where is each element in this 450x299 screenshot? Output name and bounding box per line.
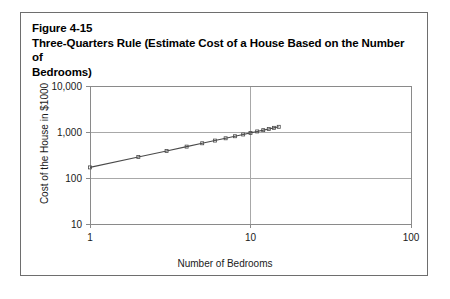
y-axis-title: Cost of the House in $1000	[39, 79, 50, 209]
y-tick-label: 10,000	[21, 81, 82, 92]
figure-frame: Figure 4-15 Three-Quarters Rule (Estimat…	[20, 12, 428, 276]
chart-svg	[21, 13, 429, 277]
y-tick-label: 1,000	[21, 127, 82, 138]
y-tick-label: 100	[21, 173, 82, 184]
chart-plot-area: Cost of the House in $1000 Number of Bed…	[21, 13, 429, 277]
x-tick-label: 1	[87, 232, 93, 243]
y-tick-label: 10	[21, 219, 82, 230]
x-tick-label: 10	[245, 232, 256, 243]
x-axis-title: Number of Bedrooms	[21, 258, 429, 269]
x-tick-label: 100	[403, 232, 420, 243]
